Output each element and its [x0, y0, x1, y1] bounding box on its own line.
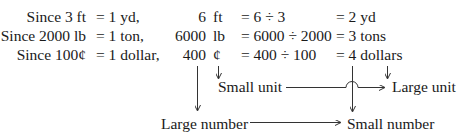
arrow-unit-conversion — [286, 82, 384, 88]
arrow-diagram — [0, 0, 463, 136]
